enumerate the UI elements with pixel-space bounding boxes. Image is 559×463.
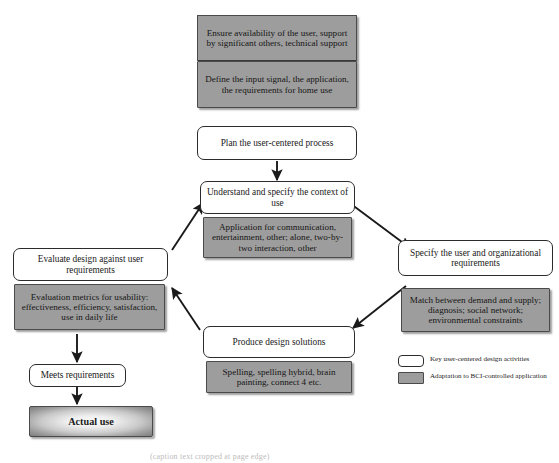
node-evaluate-design[interactable]: Evaluate design against user requirement…: [13, 248, 168, 281]
node-evaluate-design-adaptation-label: Evaluation metrics for usability: effect…: [19, 292, 160, 323]
node-plan-process[interactable]: Plan the user-centered process: [197, 126, 357, 160]
arrow-produce-to-evaluate: [172, 288, 200, 330]
node-specify-requirements-label: Specify the user and organizational requ…: [404, 248, 547, 269]
arrow-evaluate-to-understand: [172, 203, 203, 250]
node-produce-design-solutions-adaptation-label: Spelling, spelling hybrid, brain paintin…: [211, 367, 347, 387]
node-define-input-signal-label: Define the input signal, the application…: [202, 74, 352, 94]
arrow-specify-to-produce: [353, 286, 406, 328]
node-define-input-signal[interactable]: Define the input signal, the application…: [197, 61, 357, 108]
node-meets-requirements-label: Meets requirements: [41, 370, 115, 380]
node-ensure-availability-label: Ensure availability of the user, support…: [202, 28, 352, 48]
legend-item-adaptation-label: Adaptation to BCI-controlled application: [430, 372, 558, 381]
node-produce-design-solutions-label: Produce design solutions: [233, 337, 326, 347]
legend-item-key-activities: Key user-centered design activities: [398, 355, 558, 367]
legend-item-key-activities-label: Key user-centered design activities: [430, 355, 558, 364]
node-produce-design-solutions[interactable]: Produce design solutions: [203, 326, 355, 358]
node-actual-use[interactable]: Actual use: [29, 406, 153, 437]
node-plan-process-label: Plan the user-centered process: [221, 138, 334, 148]
node-produce-design-solutions-adaptation[interactable]: Spelling, spelling hybrid, brain paintin…: [206, 361, 352, 393]
legend-swatch-gray-icon: [398, 372, 424, 384]
legend-item-adaptation: Adaptation to BCI-controlled application: [398, 372, 558, 384]
node-specify-requirements[interactable]: Specify the user and organizational requ…: [398, 240, 553, 276]
legend: Key user-centered design activities Adap…: [398, 355, 558, 389]
node-understand-context[interactable]: Understand and specify the context of us…: [200, 181, 355, 214]
node-ensure-availability[interactable]: Ensure availability of the user, support…: [197, 15, 357, 61]
figure-caption-sliver: (caption text cropped at page edge): [150, 453, 559, 463]
node-evaluate-design-adaptation[interactable]: Evaluation metrics for usability: effect…: [14, 284, 165, 330]
node-understand-context-adaptation[interactable]: Application for communication, entertain…: [203, 217, 352, 258]
legend-swatch-white-icon: [398, 355, 424, 367]
node-understand-context-label: Understand and specify the context of us…: [206, 187, 349, 208]
node-evaluate-design-label: Evaluate design against user requirement…: [19, 254, 162, 275]
node-understand-context-adaptation-label: Application for communication, entertain…: [208, 222, 347, 253]
node-actual-use-label: Actual use: [68, 416, 114, 427]
node-meets-requirements[interactable]: Meets requirements: [29, 364, 126, 387]
node-specify-requirements-adaptation-label: Match between demand and supply; diagnos…: [406, 295, 545, 326]
figure-caption-sliver-text: (caption text cropped at page edge): [150, 453, 559, 461]
node-specify-requirements-adaptation[interactable]: Match between demand and supply; diagnos…: [401, 288, 550, 332]
diagram-canvas: Ensure availability of the user, support…: [0, 0, 559, 463]
